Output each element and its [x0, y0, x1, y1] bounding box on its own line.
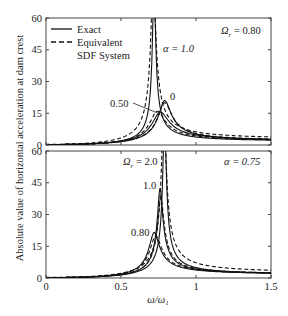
x-tick-label: 0.5 [114, 281, 127, 292]
x-tick-label: 1 [193, 281, 198, 292]
bottom-label-10: 1.0 [143, 180, 156, 191]
y-tick-label: 0 [37, 273, 42, 284]
legend-equivalent-label: Equivalent [77, 37, 123, 48]
x-tick-label: 1.5 [264, 281, 277, 292]
figure: Absolute value of horizontal acceleratio… [0, 0, 288, 316]
legend-exact-label: Exact [77, 24, 101, 35]
legend: Exact Equivalent SDF System [51, 24, 130, 61]
y-tick-label: 30 [32, 76, 43, 87]
top-label-050: 0.50 [110, 98, 128, 109]
bottom-omega-label: Ωr = 2.0 [123, 156, 158, 170]
y-tick-label: 60 [32, 146, 43, 157]
legend-sdf-label: SDF System [77, 50, 130, 61]
top-omega-annotation: Ωr = 0.80 [221, 25, 261, 39]
y-tick-label: 45 [32, 44, 43, 55]
bottom-panel: 01530456000.511.5 α = 0.75 Ωr = 2.0 1.0 … [32, 138, 278, 292]
bottom-alpha-annotation: α = 0.75 [224, 156, 260, 167]
y-tick-label: 45 [32, 177, 43, 188]
top-label-050-leader [133, 103, 160, 114]
x-axis-label: ω/ω₁ [147, 294, 168, 305]
curve-solid [46, 101, 271, 145]
x-tick-label: 0 [43, 281, 48, 292]
bottom-ticks: 01530456000.511.5 [32, 146, 278, 293]
y-tick-label: 15 [32, 108, 43, 119]
bottom-label-080: 0.80 [131, 227, 149, 238]
y-axis-label: Absolute value of horizontal acceleratio… [14, 35, 25, 262]
y-tick-label: 15 [32, 241, 43, 252]
top-panel: 015304560 Exact Equivalent SDF System Ωr… [32, 5, 272, 150]
curve-solid [46, 188, 271, 278]
top-alpha-label: α = 1.0 [163, 43, 195, 54]
y-tick-label: 60 [32, 13, 43, 24]
y-tick-label: 30 [32, 209, 43, 220]
top-label-0: 0 [170, 91, 175, 102]
